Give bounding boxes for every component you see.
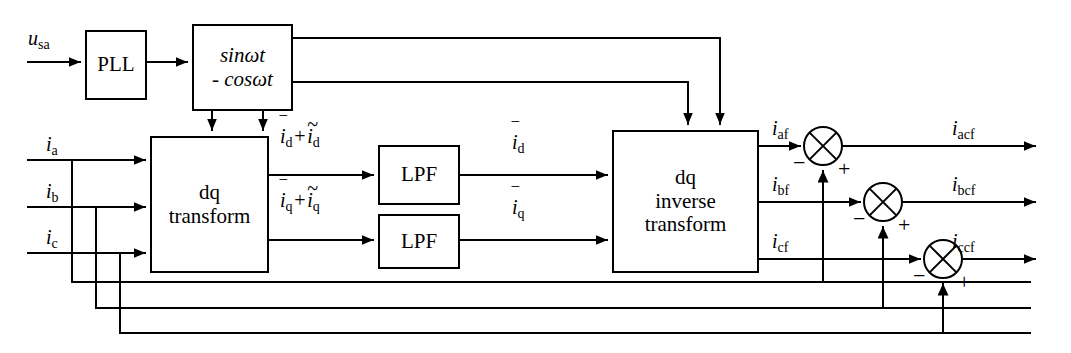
bar-accent-id: ‾ (280, 115, 286, 135)
block-lpf-q-label: LPF (401, 230, 437, 254)
sum-b-plus-sign: + (898, 214, 910, 236)
tilde-accent-id: ~ (307, 114, 313, 134)
block-sin-cos-generator[interactable]: sinωt - cosωt (192, 24, 293, 111)
block-dq-transform-label-line2: transform (169, 205, 251, 229)
sum-a-minus-sign: − (793, 152, 805, 174)
label-i-cf: icf (772, 231, 788, 255)
label-i-cf-sub: cf (778, 240, 789, 255)
block-cos-label: - cosωt (212, 68, 273, 92)
sum-c-plus-sign: + (958, 271, 970, 293)
block-dq-transform[interactable]: dq transform (150, 136, 269, 273)
label-i-b: ib (46, 181, 59, 205)
label-i-b-sub: b (52, 190, 59, 205)
label-i-acf-sub: acf (958, 127, 975, 142)
label-i-c-sub: c (52, 236, 58, 251)
block-pll[interactable]: PLL (85, 30, 147, 100)
label-i-bf: ibf (772, 174, 789, 198)
label-iq2-sub: q (313, 199, 320, 214)
label-id-sub: d (286, 135, 293, 150)
label-u-sa-sub: sa (38, 37, 50, 52)
label-i-a-sub: a (52, 143, 58, 158)
block-dq-inverse-transform[interactable]: dq inverse transform (612, 130, 759, 273)
sum-c-minus-sign: − (913, 265, 925, 287)
block-dq-inverse-label-line1: dq (675, 166, 696, 190)
label-i-ccf-sub: ccf (958, 240, 975, 255)
block-dq-inverse-label-line3: transform (645, 213, 727, 237)
label-i-af-sub: af (778, 127, 789, 142)
label-id-bar: ‾id (512, 132, 525, 156)
block-pll-label: PLL (97, 53, 134, 77)
bar-accent-id-bar: ‾ (512, 121, 518, 141)
label-iq-fundamental-plus-harmonic: ‾iq + ~iq (280, 190, 320, 214)
label-iq-bar: ‾iq (512, 197, 525, 221)
block-lpf-d-label: LPF (401, 163, 437, 187)
label-i-bcf: ibcf (952, 174, 975, 198)
sum-b-minus-sign: − (853, 208, 865, 230)
block-lpf-q[interactable]: LPF (378, 214, 460, 269)
block-sin-label: sinωt (220, 44, 265, 68)
label-id-fundamental-plus-harmonic: ‾id + ~id (280, 126, 320, 150)
label-u-sa-base: u (28, 27, 38, 49)
block-dq-transform-label-line1: dq (199, 181, 220, 205)
label-i-acf: iacf (952, 118, 975, 142)
label-i-ccf: iccf (952, 231, 975, 255)
label-iq-bar-sub: q (518, 206, 525, 221)
block-diagram-canvas: PLL sinωt - cosωt dq transform LPF LPF d… (0, 0, 1071, 353)
label-i-af: iaf (772, 118, 788, 142)
label-i-bf-sub: bf (778, 183, 790, 198)
label-i-a: ia (46, 134, 58, 158)
label-i-bcf-sub: bcf (958, 183, 976, 198)
label-i-c: ic (46, 227, 58, 251)
label-u-sa: usa (28, 28, 50, 52)
label-id-bar-sub: d (518, 141, 525, 156)
block-dq-inverse-label-line2: inverse (655, 190, 716, 214)
label-iq-sub: q (286, 199, 293, 214)
sum-a-plus-sign: + (838, 158, 850, 180)
label-id2-sub: d (313, 135, 320, 150)
bar-accent-iq: ‾ (280, 179, 286, 199)
tilde-accent-iq: ~ (307, 178, 313, 198)
bar-accent-iq-bar: ‾ (512, 186, 518, 206)
block-lpf-d[interactable]: LPF (378, 145, 460, 205)
